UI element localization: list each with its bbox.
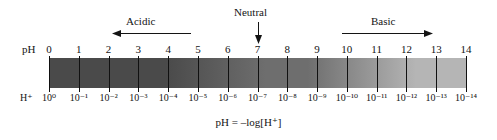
ph-tick-label: 10 (341, 44, 352, 55)
ph-tick-label: 4 (165, 44, 171, 55)
ph-tick-label: 14 (461, 44, 472, 55)
acidic-label: Acidic (126, 16, 155, 27)
axis-tick (109, 56, 110, 92)
ph-tick-label: 0 (46, 44, 52, 55)
concentration-tick-label: 10⁻⁸ (278, 93, 297, 103)
concentration-tick-label: 10⁻⁷ (248, 93, 267, 103)
axis-tick (258, 56, 259, 92)
ph-tick-label: 1 (76, 44, 82, 55)
axis-tick (198, 56, 199, 92)
ph-tick-label: 9 (314, 44, 320, 55)
concentration-tick-label: 10⁻¹ (70, 93, 88, 103)
axis-tick (228, 56, 229, 92)
concentration-tick-label: 10⁻⁹ (308, 93, 327, 103)
ph-tick-label: 5 (195, 44, 201, 55)
concentration-tick-label: 10⁻⁴ (159, 93, 178, 103)
left-arrow-icon (112, 29, 192, 38)
ph-tick-label: 13 (431, 44, 442, 55)
ph-tick-label: 12 (401, 44, 412, 55)
neutral-label: Neutral (234, 7, 267, 18)
axis-tick (406, 56, 407, 92)
axis-tick (377, 56, 378, 92)
ph-tick-label: 8 (285, 44, 291, 55)
concentration-tick-label: 10⁻³ (129, 93, 147, 103)
axis-tick (287, 56, 288, 92)
axis-tick (168, 56, 169, 92)
hydrogen-row-label: H⁺ (20, 93, 33, 103)
axis-tick (436, 56, 437, 92)
concentration-tick-label: 10⁻² (99, 93, 117, 103)
ph-scale-figure: Acidic Neutral Basic pH H⁺ 010⁰110⁻¹210⁻… (0, 0, 497, 140)
axis-tick (79, 56, 80, 92)
ph-tick-label: 2 (106, 44, 112, 55)
concentration-tick-label: 10⁻¹¹ (366, 93, 387, 103)
ph-tick-label: 6 (225, 44, 231, 55)
ph-tick-label: 3 (136, 44, 142, 55)
concentration-tick-label: 10⁻¹³ (426, 93, 447, 103)
ph-tick-label: 7 (255, 44, 261, 55)
concentration-tick-label: 10⁻⁵ (189, 93, 208, 103)
axis-tick (347, 56, 348, 92)
axis-tick (49, 56, 50, 92)
ph-formula: pH = –log[H⁺] (0, 117, 497, 128)
ph-tick-label: 11 (371, 44, 382, 55)
down-arrow-icon (254, 22, 263, 44)
concentration-tick-label: 10⁻¹⁰ (336, 93, 358, 103)
concentration-tick-label: 10⁰ (42, 93, 56, 103)
basic-label: Basic (371, 16, 395, 27)
concentration-tick-label: 10⁻¹⁴ (455, 93, 477, 103)
axis-tick (466, 56, 467, 92)
ph-row-label: pH (22, 44, 35, 55)
concentration-tick-label: 10⁻⁶ (218, 93, 237, 103)
axis-tick (317, 56, 318, 92)
axis-tick (138, 56, 139, 92)
right-arrow-icon (342, 29, 433, 38)
concentration-tick-label: 10⁻¹² (396, 93, 417, 103)
